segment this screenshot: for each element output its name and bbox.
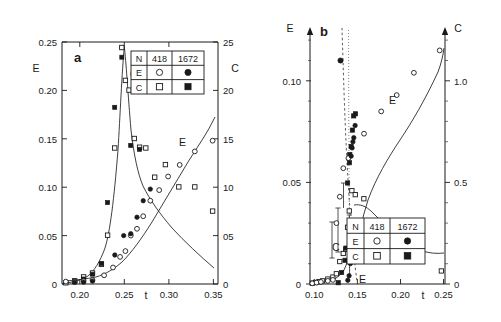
panel-a-xtick-0: 0.20 bbox=[71, 289, 90, 300]
panel-a-ytick-5: 0.25 bbox=[39, 37, 58, 48]
panel-a-legend: N 418 1672 E C bbox=[131, 51, 204, 94]
panel-b-legend-header-1672: 1672 bbox=[397, 222, 417, 232]
panel-b-label: b bbox=[320, 24, 328, 39]
panel-b-svg: 0 0.05 0.10 E 0 0.5 bbox=[250, 0, 501, 322]
panel-b-annotation-e-low: E bbox=[359, 273, 366, 285]
panel-b-ytick-1: 0.05 bbox=[283, 177, 302, 188]
legend-filled-square-icon bbox=[185, 84, 191, 90]
panel-b-y2tick-2: 1.0 bbox=[454, 76, 467, 87]
panel-b-xtick-2: 0.20 bbox=[391, 289, 410, 300]
legend-filled-circle-icon bbox=[404, 238, 410, 244]
panel-a-legend-header-418: 418 bbox=[152, 54, 167, 64]
panel-a-left-axis-label: E bbox=[32, 62, 39, 74]
panel-a-label: a bbox=[74, 50, 82, 65]
panel-a-xtick-1: 0.25 bbox=[115, 289, 134, 300]
panel-a-y2tick-5: 25 bbox=[223, 37, 234, 48]
panel-a-xaxis-label: t bbox=[145, 289, 148, 301]
panel-a-y2tick-4: 20 bbox=[223, 85, 234, 96]
panel-a-ytick-3: 0.15 bbox=[39, 134, 58, 145]
panel-b-annotation-e-high: E bbox=[389, 94, 396, 106]
panel-a-curve-e bbox=[66, 117, 215, 281]
panel-b-xtick-0: 0.10 bbox=[305, 289, 324, 300]
figure-container: 0 0.05 0.10 0.15 0.20 0.25 E 0 05 10 15 bbox=[0, 0, 501, 322]
legend-open-square-icon bbox=[374, 253, 381, 260]
panel-b-left-yaxis: 0 0.05 0.10 E bbox=[283, 22, 312, 290]
panel-a-y2tick-1: 05 bbox=[223, 231, 234, 242]
legend-open-circle-icon bbox=[374, 238, 380, 244]
panel-a-xtick-2: 0.30 bbox=[160, 289, 179, 300]
panel-b-left-axis-arrow bbox=[307, 27, 313, 35]
panel-a-ytick-4: 0.20 bbox=[39, 85, 58, 96]
panel-b-legend-header-418: 418 bbox=[369, 222, 384, 232]
panel-b-y2tick-1: 0.5 bbox=[454, 177, 467, 188]
panel-a-legend-header-n: N bbox=[136, 54, 143, 64]
panel-b-legend: N 418 1672 E C bbox=[347, 218, 425, 264]
panel-b-legend-header-n: N bbox=[352, 222, 359, 232]
chart-panel-b: 0 0.05 0.10 E 0 0.5 bbox=[250, 0, 501, 322]
panel-a-series-e-418 bbox=[63, 138, 215, 284]
panel-b-legend-row-c-label: C bbox=[352, 252, 359, 262]
legend-filled-circle-icon bbox=[185, 69, 191, 75]
panel-b-xtick-3: 0.25 bbox=[434, 289, 453, 300]
panel-b-right-axis-arrow bbox=[442, 27, 448, 35]
panel-a-right-yaxis: 0 05 10 15 20 25 C bbox=[213, 37, 239, 290]
panel-b-ytick-2: 0.10 bbox=[283, 76, 302, 87]
panel-a-y2tick-2: 10 bbox=[223, 182, 234, 193]
panel-a-svg: 0 0.05 0.10 0.15 0.20 0.25 E 0 05 10 15 bbox=[0, 0, 250, 322]
panel-a-xtick-3: 0.35 bbox=[204, 289, 223, 300]
panel-b-right-axis-label: C bbox=[454, 22, 462, 34]
legend-open-circle-icon bbox=[156, 69, 162, 75]
panel-a-right-axis-label: C bbox=[231, 62, 239, 74]
panel-a-ytick-1: 0.05 bbox=[39, 231, 58, 242]
panel-b-xaxis-label: t bbox=[422, 289, 425, 301]
legend-open-square-icon bbox=[156, 84, 162, 90]
panel-b-annotation-c-low: C bbox=[332, 241, 340, 253]
panel-a-legend-row-e-label: E bbox=[136, 68, 142, 78]
panel-b-y2tick-0: 0 bbox=[454, 279, 459, 290]
panel-a-legend-header-1672: 1672 bbox=[178, 54, 198, 64]
panel-a-annotation-e: E bbox=[179, 136, 186, 148]
panel-a-ytick-0: 0 bbox=[52, 279, 57, 290]
chart-panel-a: 0 0.05 0.10 0.15 0.20 0.25 E 0 05 10 15 bbox=[0, 0, 250, 322]
panel-a-ytick-2: 0.10 bbox=[39, 182, 58, 193]
panel-a-y2tick-0: 0 bbox=[223, 279, 228, 290]
panel-b-legend-row-e-label: E bbox=[352, 237, 358, 247]
legend-filled-square-icon bbox=[404, 253, 411, 260]
panel-b-left-axis-label: E bbox=[286, 22, 293, 34]
panel-a-y2tick-3: 15 bbox=[223, 134, 234, 145]
panel-a-legend-row-c-label: C bbox=[136, 83, 143, 93]
panel-b-right-yaxis: 0 0.5 1.0 C bbox=[445, 22, 467, 290]
panel-b-ytick-0: 0 bbox=[296, 279, 301, 290]
panel-b-xtick-1: 0.15 bbox=[348, 289, 367, 300]
